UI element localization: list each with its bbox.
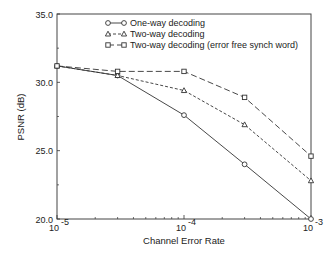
x-tick-label: 10 [176,223,186,233]
legend-label: One-way decoding [130,18,205,28]
psnr-line-chart: 20.025.030.035.010-510-410-3 One-way dec… [0,0,331,255]
x-axis-title: Channel Error Rate [143,235,225,246]
triangle-marker [121,31,126,36]
triangle-marker [308,178,313,183]
square-marker [182,69,186,73]
circle-marker [122,21,127,26]
y-tick-label: 25.0 [35,146,53,156]
x-tick-exponent: -3 [315,217,323,227]
square-marker [309,154,313,158]
y-tick-label: 35.0 [35,10,53,20]
y-tick-label: 30.0 [35,78,53,88]
legend-label: Two-way decoding [130,29,205,39]
circle-marker [106,21,111,26]
square-marker [115,69,119,73]
circle-marker [182,113,187,118]
circle-marker [309,217,314,222]
circle-marker [242,162,247,167]
square-marker [122,43,126,47]
square-marker [242,95,246,99]
square-marker [55,64,59,68]
legend-item: Two-way decoding [105,29,204,39]
legend-item: Two-way decoding (error free synch word) [106,40,298,50]
series-square [55,64,313,159]
x-tick-exponent: -5 [61,217,69,227]
series-line [57,66,311,156]
x-tick-exponent: -4 [188,217,196,227]
legend: One-way decodingTwo-way decodingTwo-way … [105,18,298,50]
series-line [57,66,311,181]
triangle-marker [242,122,247,127]
x-tick-label: 10 [303,223,313,233]
x-tick-label: 10 [49,223,59,233]
data-series [54,63,313,221]
legend-item: One-way decoding [106,18,205,28]
legend-label: Two-way decoding (error free synch word) [130,40,298,50]
square-marker [106,43,110,47]
series-triangle [54,63,313,183]
y-axis-title: PSNR (dB) [15,94,26,141]
